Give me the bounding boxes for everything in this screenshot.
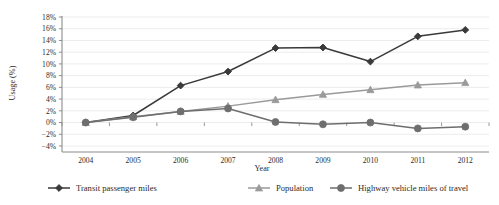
x-tick-label: 2011 xyxy=(410,156,425,165)
y-tick-label: 10% xyxy=(42,60,57,69)
y-tick-label: 0% xyxy=(46,118,57,127)
x-tick-label: 2005 xyxy=(126,156,141,165)
data-point-3-2009 xyxy=(319,121,326,128)
legend-label: Highway vehicle miles of travel xyxy=(358,183,469,193)
usage-percent-line-chart: 18%16%14%12%10%8%6%4%2%0%−2%−4% 20042005… xyxy=(0,0,499,205)
x-tick-label: 2010 xyxy=(363,156,378,165)
data-point-3-2011 xyxy=(414,125,421,132)
y-tick-label: −2% xyxy=(42,130,57,139)
y-tick-label: 14% xyxy=(42,36,57,45)
x-tick-labels-group: 200420052006200720082009201020112012 xyxy=(78,156,473,165)
legend-marker-icon xyxy=(338,185,345,192)
data-point-3-2006 xyxy=(177,108,184,115)
x-tick-label: 2007 xyxy=(220,156,235,165)
y-tick-label: 18% xyxy=(42,13,57,22)
y-tick-label: 16% xyxy=(42,24,57,33)
data-point-3-2005 xyxy=(130,114,137,121)
x-tick-label: 2006 xyxy=(173,156,188,165)
data-point-3-2008 xyxy=(272,118,279,125)
y-axis-title: Usage (%) xyxy=(8,65,17,100)
x-tick-label: 2004 xyxy=(78,156,93,165)
y-tick-label: 6% xyxy=(46,83,57,92)
x-axis-title: Year xyxy=(254,164,269,173)
x-tick-label: 2008 xyxy=(268,156,283,165)
data-point-3-2004 xyxy=(82,119,89,126)
y-tick-label: −4% xyxy=(42,142,57,151)
y-tick-label: 8% xyxy=(46,71,57,80)
x-tick-label: 2012 xyxy=(458,156,473,165)
data-point-3-2007 xyxy=(225,105,232,112)
data-point-3-2012 xyxy=(462,123,469,130)
y-tick-label: 12% xyxy=(42,48,57,57)
legend-label: Transit passenger miles xyxy=(76,183,157,193)
y-tick-label: 4% xyxy=(46,95,57,104)
legend-label: Population xyxy=(276,183,314,193)
x-tick-label: 2009 xyxy=(315,156,330,165)
data-point-3-2010 xyxy=(367,119,374,126)
y-tick-label: 2% xyxy=(46,107,57,116)
chart-figure: 18%16%14%12%10%8%6%4%2%0%−2%−4% 20042005… xyxy=(0,0,499,205)
